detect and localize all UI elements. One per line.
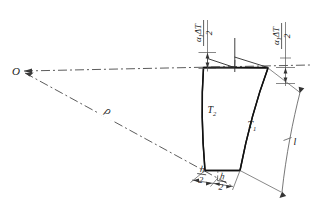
center-of-curvature-label: O	[12, 65, 20, 77]
expansion-left-numerator: α1ΔT	[193, 23, 204, 42]
expansion-right-numerator: α1ΔT	[271, 26, 282, 45]
expansion-right-denominator: 2	[282, 33, 292, 38]
thermal-bending-diagram: α1ΔT 2 α1ΔT 2	[0, 0, 329, 211]
length-label: l	[294, 136, 297, 147]
expansion-left-denominator: 2	[204, 30, 214, 35]
figure-canvas: α1ΔT 2 α1ΔT 2	[0, 0, 329, 211]
